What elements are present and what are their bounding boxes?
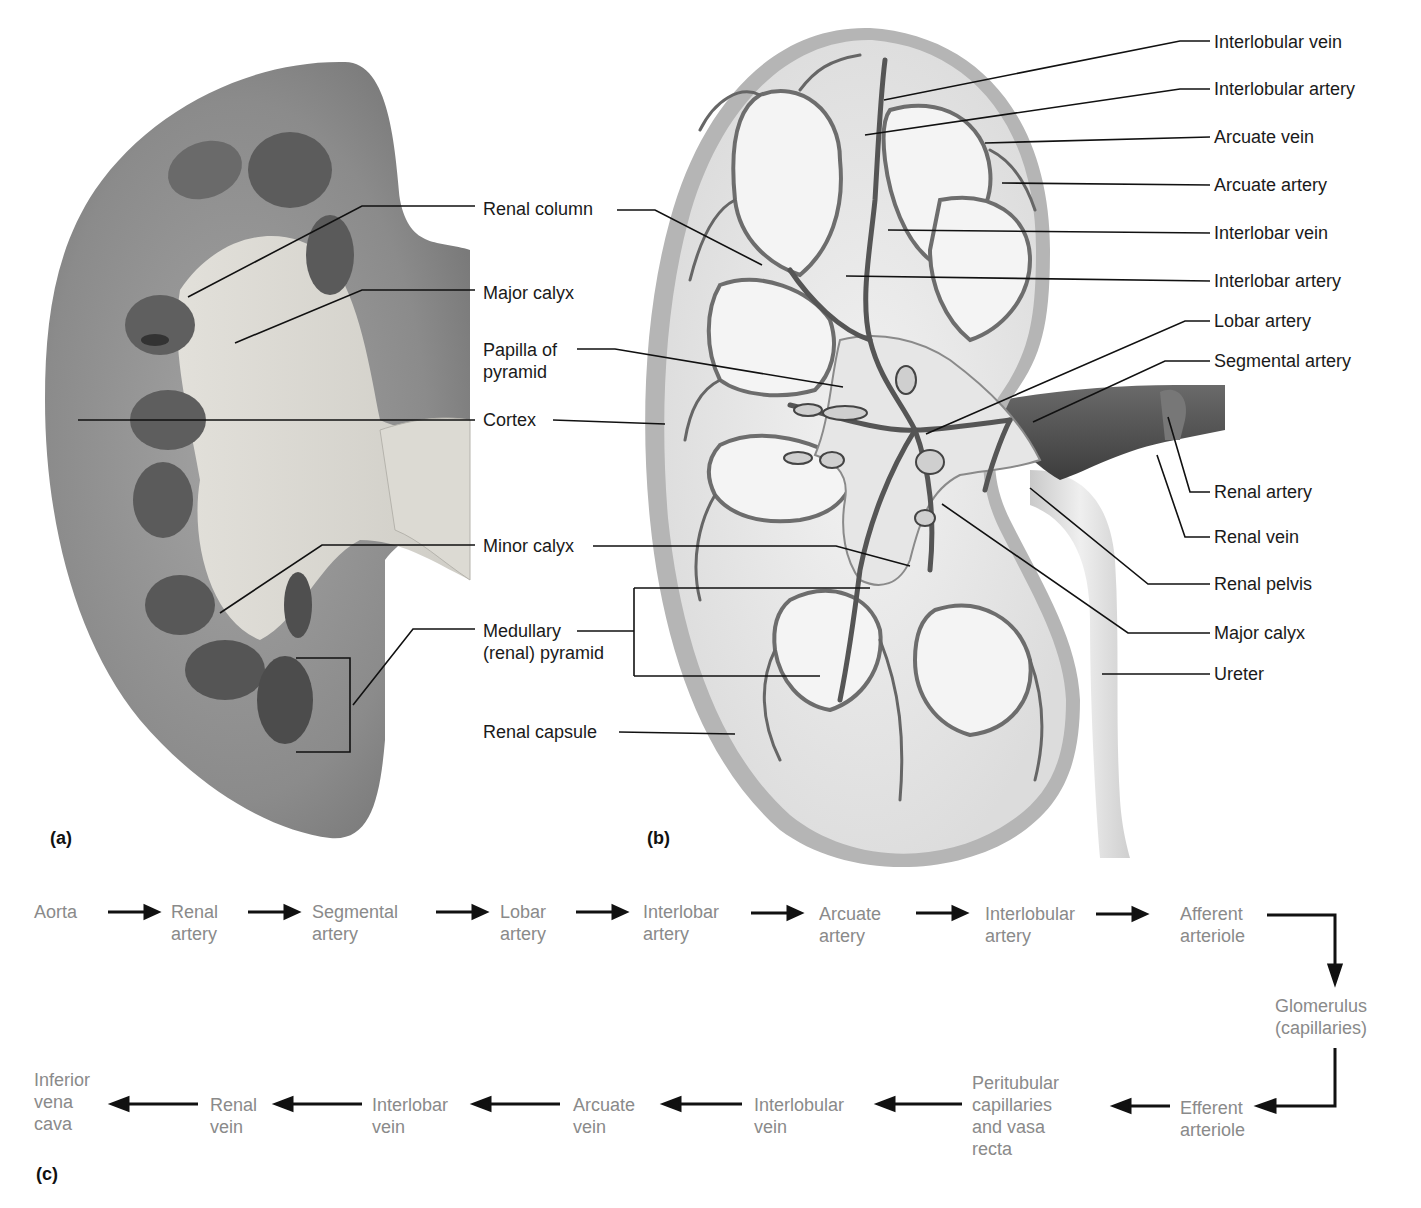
- panel-label-b: (b): [647, 828, 670, 849]
- label-cortex: Cortex: [483, 409, 536, 431]
- label-arcuate-vein: Arcuate vein: [1214, 126, 1314, 148]
- label-interlobular-artery: Interlobular artery: [1214, 78, 1355, 100]
- label-renal-capsule: Renal capsule: [483, 721, 597, 743]
- flow-interlobar-artery: Interlobar artery: [643, 901, 719, 945]
- flow-inferior-vena-cava: Inferior vena cava: [34, 1069, 90, 1135]
- label-renal-vein: Renal vein: [1214, 526, 1299, 548]
- flow-renal-vein: Renal vein: [210, 1094, 257, 1138]
- flow-segmental-artery: Segmental artery: [312, 901, 398, 945]
- label-renal-column: Renal column: [483, 198, 593, 220]
- label-medullary-pyramid: Medullary (renal) pyramid: [483, 620, 604, 664]
- leader-lines: [0, 0, 1421, 1208]
- label-renal-pelvis: Renal pelvis: [1214, 573, 1312, 595]
- flow-aorta: Aorta: [34, 901, 77, 923]
- flow-arcuate-artery: Arcuate artery: [819, 903, 881, 947]
- flow-afferent-arteriole: Afferent arteriole: [1180, 903, 1245, 947]
- flow-glomerulus: Glomerulus (capillaries): [1275, 995, 1367, 1039]
- label-segmental-artery: Segmental artery: [1214, 350, 1351, 372]
- panel-label-a: (a): [50, 828, 72, 849]
- flow-interlobular-vein: Interlobular vein: [754, 1094, 844, 1138]
- label-renal-artery: Renal artery: [1214, 481, 1312, 503]
- label-interlobar-vein: Interlobar vein: [1214, 222, 1328, 244]
- label-minor-calyx: Minor calyx: [483, 535, 574, 557]
- panel-label-c: (c): [36, 1164, 58, 1185]
- label-arcuate-artery: Arcuate artery: [1214, 174, 1327, 196]
- flow-lobar-artery: Lobar artery: [500, 901, 546, 945]
- label-lobar-artery: Lobar artery: [1214, 310, 1311, 332]
- label-ureter: Ureter: [1214, 663, 1264, 685]
- label-major-calyx-right: Major calyx: [1214, 622, 1305, 644]
- label-interlobar-artery: Interlobar artery: [1214, 270, 1341, 292]
- label-interlobular-vein: Interlobular vein: [1214, 31, 1342, 53]
- flow-peritubular-capillaries: Peritubular capillaries and vasa recta: [972, 1072, 1059, 1160]
- label-papilla-of-pyramid: Papilla of pyramid: [483, 339, 557, 383]
- flow-efferent-arteriole: Efferent arteriole: [1180, 1097, 1245, 1141]
- flow-arcuate-vein: Arcuate vein: [573, 1094, 635, 1138]
- flow-interlobular-artery: Interlobular artery: [985, 903, 1075, 947]
- label-major-calyx-left: Major calyx: [483, 282, 574, 304]
- flow-interlobar-vein: Interlobar vein: [372, 1094, 448, 1138]
- flow-renal-artery: Renal artery: [171, 901, 218, 945]
